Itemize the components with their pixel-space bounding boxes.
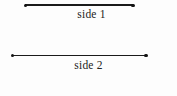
line-segment-2-left-endpoint-dot — [11, 54, 14, 57]
line-segment-2-right-endpoint-dot — [144, 54, 147, 57]
line-segment-1-right-endpoint-dot — [131, 4, 134, 7]
line-segment-2-group: side 2 — [0, 50, 177, 76]
line-segment-1-left-endpoint-dot — [24, 4, 27, 7]
line-segment-2-label: side 2 — [0, 59, 177, 71]
line-segment-1-label: side 1 — [0, 8, 177, 20]
line-segment-figure: side 1 side 2 — [0, 0, 177, 96]
line-segment-1 — [25, 4, 133, 6]
line-segment-1-group: side 1 — [0, 0, 177, 24]
line-segment-2 — [12, 55, 146, 57]
